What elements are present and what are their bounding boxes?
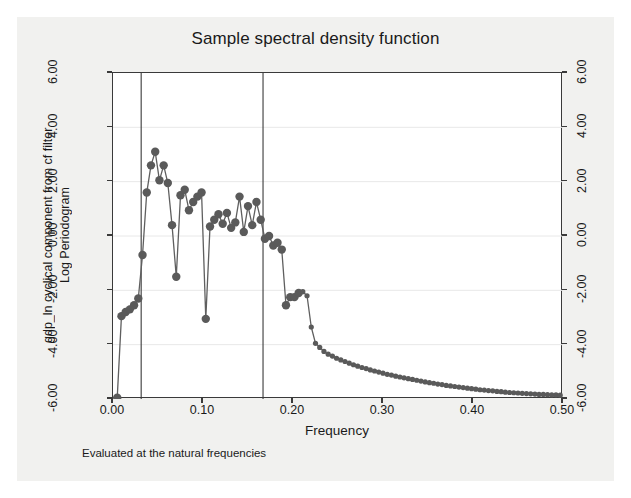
data-markers [113, 148, 563, 399]
x-tickmark [381, 398, 382, 403]
x-tickmark [291, 398, 292, 403]
x-tick-3: 0.30 [352, 403, 412, 417]
y-tickmark [562, 289, 567, 290]
y-tickmark [107, 126, 112, 127]
x-tickmark [111, 398, 112, 403]
y-tick-left-0: 6.00 [46, 46, 62, 98]
x-tick-1: 0.10 [172, 403, 232, 417]
y-tick-left-2: 2.00 [46, 155, 62, 207]
gridlines [113, 127, 563, 344]
y-tickmark [107, 234, 112, 235]
y-tickmark [107, 289, 112, 290]
plot-area [112, 72, 562, 398]
x-tickmark [561, 398, 562, 403]
y-tickmark [562, 71, 567, 72]
y-tick-left-1: 4.00 [46, 100, 62, 152]
y-tick-left-4: -2.00 [46, 263, 62, 315]
y-tickmark [107, 343, 112, 344]
x-tick-4: 0.40 [442, 403, 502, 417]
y-tick-right-5: -4.00 [575, 318, 591, 370]
y-tick-right-4: -2.00 [575, 263, 591, 315]
chart-svg [113, 73, 563, 399]
figure-canvas: Sample spectral density function gdp_ln … [17, 17, 614, 481]
x-tick-0: 0.00 [82, 403, 142, 417]
x-tickmark [201, 398, 202, 403]
y-tick-left-6: -6.00 [46, 372, 62, 424]
x-tickmark [471, 398, 472, 403]
y-tick-left-3: 0.00 [46, 209, 62, 261]
y-tick-right-0: 6.00 [575, 46, 591, 98]
x-axis-title: Frequency [112, 423, 562, 438]
y-tick-right-2: 2.00 [575, 155, 591, 207]
y-tickmark [562, 126, 567, 127]
x-tick-5: 0.50 [532, 403, 592, 417]
y-tick-right-1: 4.00 [575, 100, 591, 152]
y-tickmark [562, 180, 567, 181]
y-tick-left-5: -4.00 [46, 318, 62, 370]
x-tick-2: 0.20 [262, 403, 322, 417]
y-tickmark [107, 180, 112, 181]
y-tick-right-3: 0.00 [575, 209, 591, 261]
figure-note: Evaluated at the natural frequencies [82, 447, 266, 459]
y-tickmark [562, 397, 567, 398]
chart-title: Sample spectral density function [17, 29, 614, 49]
y-tickmark [107, 71, 112, 72]
y-tickmark [562, 343, 567, 344]
y-tickmark [562, 234, 567, 235]
